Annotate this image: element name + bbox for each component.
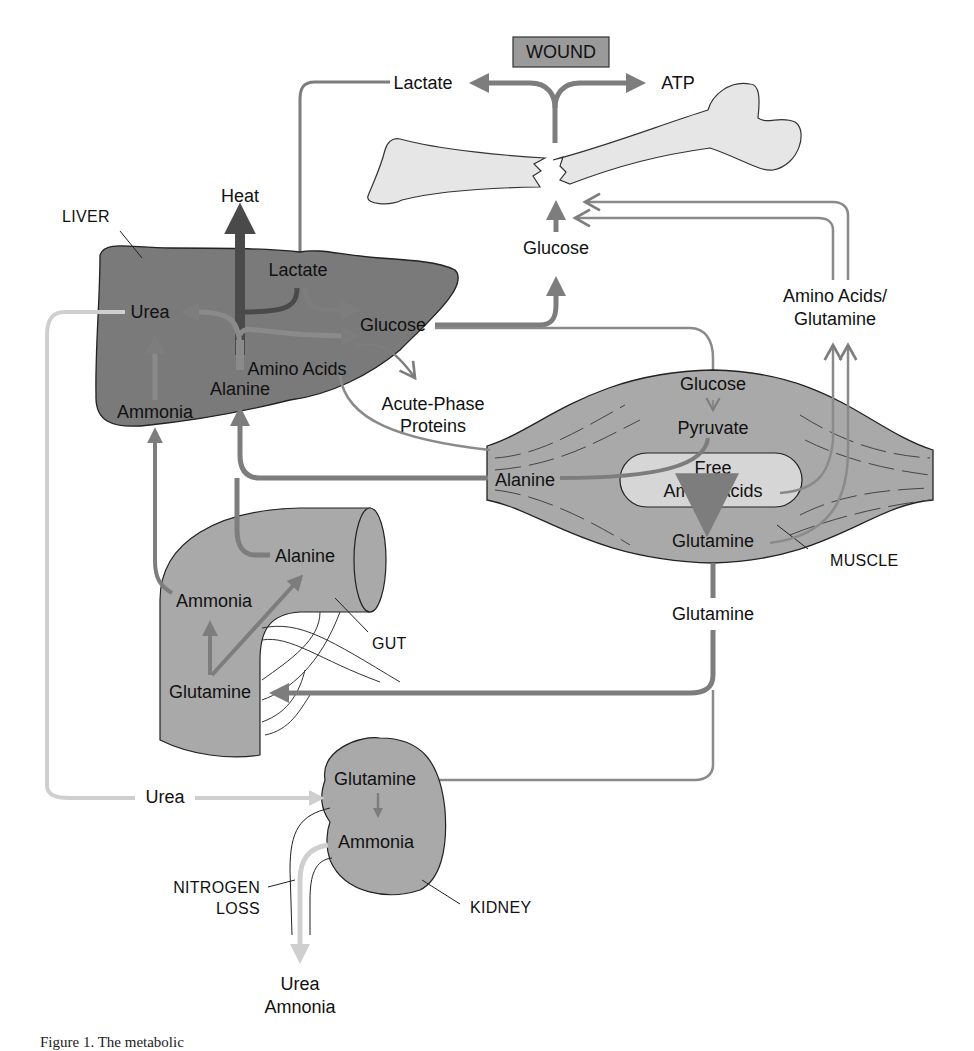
liver-lactate-label: Lactate (268, 260, 327, 280)
bone-icon (368, 83, 801, 203)
kidney-glutamine-label: Glutamine (334, 769, 416, 789)
aa-glutamine-label-1: Amino Acids/ (783, 286, 887, 306)
wound-atp-label: ATP (661, 73, 695, 93)
liver-glucose-label: Glucose (360, 315, 426, 335)
figure-caption: Figure 1. The metabolic (40, 1034, 184, 1051)
muscle-glucose-label: Glucose (680, 374, 746, 394)
nitrogen-loss-label-2: LOSS (216, 900, 260, 917)
muscle-glutamine-label: Glutamine (672, 531, 754, 551)
urine-urea-label: Urea (280, 974, 320, 994)
gut-ammonia-label: Ammonia (176, 591, 253, 611)
gut-label: GUT (372, 635, 407, 652)
free-aa-label-1: Free (694, 458, 731, 478)
liver-ammonia-label: Ammonia (117, 402, 194, 422)
wound-title: WOUND (526, 42, 596, 62)
wound-lactate-label: Lactate (393, 73, 452, 93)
acute-phase-label-2: Proteins (400, 416, 466, 436)
gut-alanine-label: Alanine (275, 546, 335, 566)
aa-glutamine-label-2: Glutamine (794, 309, 876, 329)
urine-ammonia-label: Amnonia (264, 997, 336, 1017)
heat-label: Heat (221, 186, 259, 206)
kidney-urea-in-label: Urea (145, 787, 185, 807)
wound-box: WOUND (513, 37, 609, 67)
kidney-ammonia-label: Ammonia (338, 832, 415, 852)
gut-glutamine-label: Glutamine (169, 682, 251, 702)
liver-alanine-label: Alanine (210, 379, 270, 399)
muscle-label: MUSCLE (830, 552, 898, 569)
kidney-label: KIDNEY (470, 899, 531, 916)
nitrogen-loss-label-1: NITROGEN (173, 879, 260, 896)
glutamine-out-label: Glutamine (672, 604, 754, 624)
liver-label: LIVER (62, 208, 110, 225)
liver-urea-label: Urea (130, 302, 170, 322)
muscle-pyruvate-label: Pyruvate (677, 418, 748, 438)
liver-amino-acids-label: Amino Acids (247, 359, 346, 379)
wound-glucose-label: Glucose (523, 238, 589, 258)
acute-phase-label-1: Acute-Phase (381, 394, 484, 414)
free-aa-label-2: Amino Acids (663, 481, 762, 501)
muscle-alanine-label: Alanine (495, 470, 555, 490)
kidney-organ (322, 738, 446, 895)
